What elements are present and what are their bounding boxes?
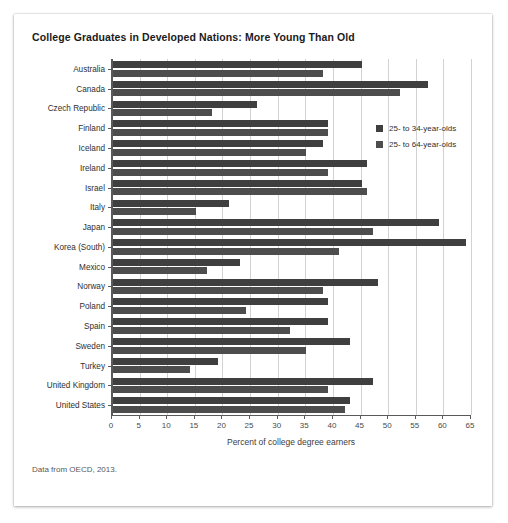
y-tick-label: Sweden (75, 341, 105, 350)
y-tick-mark (108, 69, 112, 70)
bar-poland-young (113, 298, 328, 305)
figure-card: College Graduates in Developed Nations: … (14, 14, 492, 506)
x-tick-mark-60 (442, 415, 443, 419)
bar-turkey-young (113, 358, 218, 365)
y-tick-mark (108, 227, 112, 228)
bar-sweden-all (113, 347, 306, 354)
chart-category-row: Italy (112, 197, 471, 217)
x-tick-mark-65 (470, 415, 471, 419)
x-tick-label: 65 (466, 421, 475, 430)
x-tick-mark-0 (111, 415, 112, 419)
bar-spain-young (113, 318, 328, 325)
y-tick-mark (108, 326, 112, 327)
y-tick-mark (108, 89, 112, 90)
y-tick-mark (108, 148, 112, 149)
bar-poland-all (113, 307, 246, 314)
source-note: Data from OECD, 2013. (32, 465, 117, 474)
y-tick-label: Canada (76, 84, 105, 93)
y-tick-label: Czech Republic (48, 104, 105, 113)
bar-iceland-young (113, 140, 323, 147)
y-tick-mark (108, 346, 112, 347)
x-tick-label: 50 (383, 421, 392, 430)
x-tick-mark-55 (415, 415, 416, 419)
bar-czech-republic-all (113, 109, 212, 116)
y-tick-label: Norway (77, 282, 105, 291)
x-tick-label: 30 (272, 421, 281, 430)
x-tick-mark-5 (139, 415, 140, 419)
plot-area: AustraliaCanadaCzech RepublicFinlandIcel… (111, 59, 471, 415)
bar-united-kingdom-all (113, 386, 328, 393)
y-tick-label: United States (56, 401, 105, 410)
x-tick-mark-40 (332, 415, 333, 419)
chart-category-row: Korea (South) (112, 237, 471, 257)
y-tick-mark (108, 405, 112, 406)
x-tick-label: 15 (189, 421, 198, 430)
x-tick-mark-20 (221, 415, 222, 419)
bar-turkey-all (113, 366, 190, 373)
x-tick-label: 35 (300, 421, 309, 430)
chart-category-row: Czech Republic (112, 99, 471, 119)
legend-swatch-icon (376, 141, 383, 148)
chart-category-row: Turkey (112, 356, 471, 376)
y-tick-mark (108, 188, 112, 189)
bar-united-states-young (113, 397, 350, 404)
y-tick-mark (108, 286, 112, 287)
legend-label: 25- to 64-year-olds (389, 140, 456, 149)
bar-australia-all (113, 70, 323, 77)
bar-spain-all (113, 327, 290, 334)
x-tick-label: 25 (245, 421, 254, 430)
x-tick-label: 45 (355, 421, 364, 430)
x-tick-label: 20 (217, 421, 226, 430)
chart-category-row: Poland (112, 296, 471, 316)
bar-united-kingdom-young (113, 378, 373, 385)
chart-category-row: United States (112, 395, 471, 415)
legend-label: 25- to 34-year-olds (389, 124, 456, 133)
chart-category-row: Mexico (112, 257, 471, 277)
chart-category-row: Sweden (112, 336, 471, 356)
bar-korea-south--all (113, 248, 339, 255)
chart-category-row: Canada (112, 79, 471, 99)
x-tick-label: 60 (438, 421, 447, 430)
chart-category-row: Australia (112, 59, 471, 79)
bar-canada-young (113, 81, 428, 88)
bar-finland-all (113, 129, 328, 136)
y-tick-mark (108, 207, 112, 208)
x-tick-mark-15 (194, 415, 195, 419)
y-tick-label: Poland (80, 302, 106, 311)
chart-category-row: United Kingdom (112, 375, 471, 395)
y-tick-mark (108, 168, 112, 169)
bar-mexico-all (113, 267, 207, 274)
y-tick-label: Japan (83, 223, 105, 232)
chart-category-row: Japan (112, 217, 471, 237)
bar-iceland-all (113, 149, 306, 156)
y-tick-label: Australia (73, 64, 105, 73)
y-tick-mark (108, 385, 112, 386)
bar-czech-republic-young (113, 101, 257, 108)
y-tick-label: Spain (84, 321, 105, 330)
bar-united-states-all (113, 406, 345, 413)
bar-israel-young (113, 180, 362, 187)
gridline-65 (471, 59, 472, 415)
x-tick-label: 55 (410, 421, 419, 430)
x-tick-label: 40 (327, 421, 336, 430)
y-tick-label: Ireland (80, 163, 105, 172)
chart-category-row: Norway (112, 277, 471, 297)
bar-canada-all (113, 89, 400, 96)
x-tick-mark-50 (387, 415, 388, 419)
x-tick-mark-10 (166, 415, 167, 419)
y-tick-label: Turkey (80, 361, 105, 370)
bar-ireland-young (113, 160, 367, 167)
x-tick-label: 10 (162, 421, 171, 430)
y-tick-label: Italy (90, 203, 105, 212)
bar-sweden-young (113, 338, 350, 345)
legend-item: 25- to 64-year-olds (376, 140, 456, 149)
x-axis-title: Percent of college degree earners (111, 437, 471, 447)
bar-australia-young (113, 61, 362, 68)
bar-israel-all (113, 188, 367, 195)
y-tick-mark (108, 366, 112, 367)
page-title: College Graduates in Developed Nations: … (32, 31, 355, 43)
x-tick-label: 5 (136, 421, 140, 430)
y-tick-mark (108, 267, 112, 268)
bar-japan-all (113, 228, 373, 235)
chart-category-row: Spain (112, 316, 471, 336)
